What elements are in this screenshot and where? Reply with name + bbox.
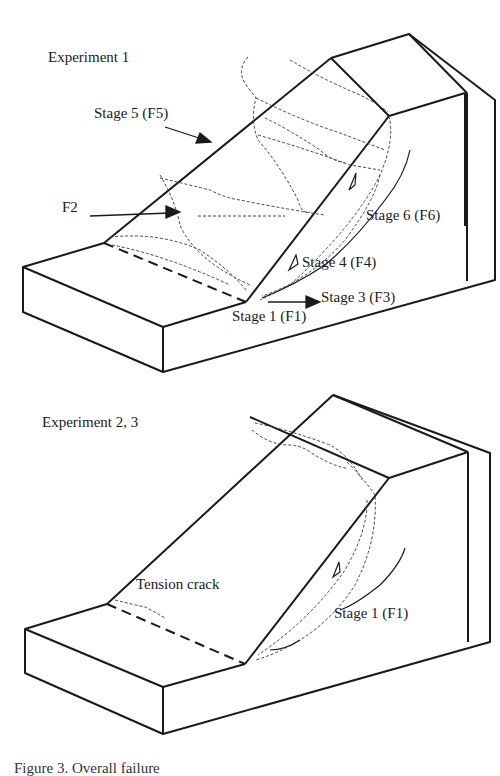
panel-title-experiment-1: Experiment 1 (48, 50, 129, 65)
label-stage-5: Stage 5 (F5) (94, 106, 168, 121)
label-stage-6: Stage 6 (F6) (366, 208, 440, 223)
label-stage-1-exp2: Stage 1 (F1) (334, 606, 408, 621)
arrow-stage5-icon (196, 133, 211, 143)
crest-left-line (331, 58, 389, 116)
experiment-1-side (163, 34, 467, 372)
experiment-2-3-failure-surface (270, 548, 405, 650)
label-f2: F2 (62, 200, 78, 215)
base-top-front-edge (23, 267, 163, 327)
slip-arrow-icon (333, 562, 340, 577)
slip-arrow-icon (349, 173, 356, 190)
label-stage-3: Stage 3 (F3) (321, 290, 395, 305)
label-stage-1: Stage 1 (F1) (232, 309, 306, 324)
label-tension-crack: Tension crack (136, 577, 220, 592)
experiment-2-3-block (25, 395, 490, 734)
crest-front-edge (389, 93, 465, 116)
toe-hidden-edge (104, 243, 246, 302)
label-stage-4: Stage 4 (F4) (302, 255, 376, 270)
experiment-1-failure-surface (262, 150, 410, 298)
slope-left-edge (104, 58, 331, 243)
experiment-1-arrows (90, 127, 320, 308)
slip-arrow-icon (289, 255, 298, 270)
figure-caption: Figure 3. Overall failure (14, 761, 160, 776)
panel-title-experiment-2-3: Experiment 2, 3 (42, 415, 138, 430)
arrow-stage3-icon (306, 296, 320, 308)
